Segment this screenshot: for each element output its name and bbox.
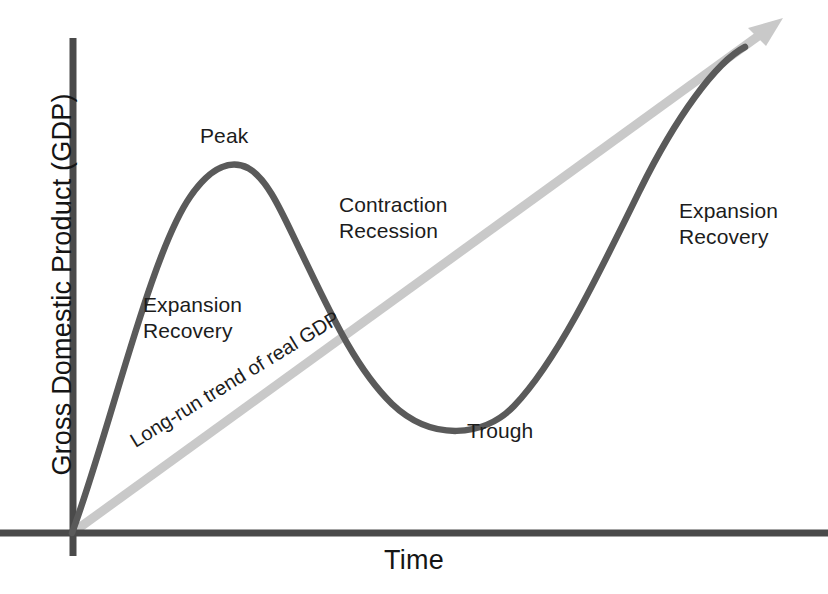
diagram-canvas — [0, 0, 828, 594]
expansion-label-right-line2: Recovery — [679, 224, 778, 250]
expansion-label-right-line1: Expansion — [679, 198, 778, 224]
business-cycle-figure: Gross Domestic Product (GDP) Time Peak C… — [0, 0, 828, 594]
trough-label: Trough — [467, 418, 533, 444]
x-axis-title: Time — [0, 544, 828, 577]
expansion-label-right: Expansion Recovery — [679, 198, 778, 249]
expansion-label-left-line1: Expansion — [143, 292, 242, 318]
y-axis-title: Gross Domestic Product (GDP) — [46, 74, 79, 494]
peak-label: Peak — [200, 123, 248, 149]
contraction-label-line2: Recession — [339, 218, 448, 244]
contraction-label: Contraction Recession — [339, 192, 448, 243]
expansion-label-left: Expansion Recovery — [143, 292, 242, 343]
expansion-label-left-line2: Recovery — [143, 318, 242, 344]
long-run-trend-line — [72, 18, 783, 533]
contraction-label-line1: Contraction — [339, 192, 448, 218]
